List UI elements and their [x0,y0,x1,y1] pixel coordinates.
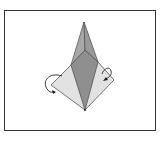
origami-diagram [0,0,164,141]
bottom-tip-dot [84,109,86,111]
